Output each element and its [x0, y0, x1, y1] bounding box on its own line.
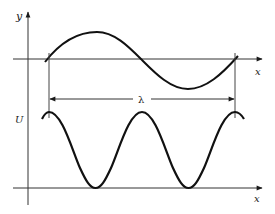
- wavelength-label: λ: [138, 94, 145, 105]
- y-axis-label: y: [15, 10, 23, 23]
- lower-x-axis-label: x: [254, 193, 260, 204]
- displacement-wave: [45, 32, 238, 89]
- energy-density-curve: [42, 112, 244, 188]
- energy-axis-label: U: [15, 114, 24, 125]
- upper-x-axis-label: x: [255, 66, 261, 77]
- wave-diagram: y x λ U x: [0, 0, 275, 214]
